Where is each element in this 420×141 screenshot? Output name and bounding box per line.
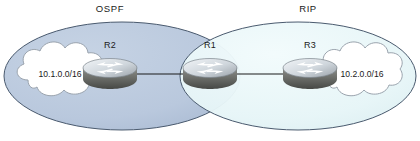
cloud-left-label: 10.1.0.0/16 [38, 69, 81, 79]
router-r2-label: R2 [104, 40, 116, 50]
router-r1-top [183, 59, 237, 78]
cloud-right-label: 10.2.0.0/16 [340, 69, 383, 79]
router-r1-label: R1 [204, 40, 216, 50]
router-r3-label: R3 [304, 40, 316, 50]
diagram-canvas: OSPF RIP 10.1.0.0/16 10.2.0.0/16 R2 [0, 0, 420, 141]
router-r2-top [83, 59, 137, 78]
rip-domain-label: RIP [299, 3, 317, 14]
router-r3-top [283, 59, 337, 78]
ospf-domain-label: OSPF [96, 3, 124, 14]
network-diagram: OSPF RIP 10.1.0.0/16 10.2.0.0/16 R2 [0, 0, 420, 141]
